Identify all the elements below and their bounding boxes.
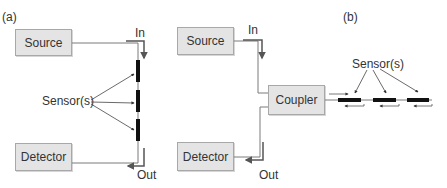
panel-b-sensors xyxy=(338,98,429,102)
panel-b-in-arrow-icon xyxy=(243,40,262,58)
panel-b-fiber xyxy=(234,41,432,157)
panel-b-reflection-arrows-icon xyxy=(345,104,432,106)
fiber-diagram xyxy=(0,0,447,188)
panel-a-in-arrow-icon xyxy=(126,41,144,58)
panel-a-sensor-pointers xyxy=(91,74,134,130)
panel-a-sensors xyxy=(136,60,140,141)
panel-b-sensor-pointers xyxy=(355,69,418,93)
